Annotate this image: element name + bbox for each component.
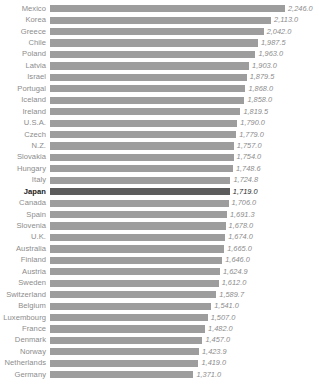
bar <box>50 303 211 310</box>
category-label: Slovakia <box>0 153 50 161</box>
value-label: 1,987.5 <box>258 39 286 47</box>
category-label: France <box>0 325 50 333</box>
value-label: 1,541.0 <box>211 302 239 310</box>
value-label: 1,482.0 <box>205 325 233 333</box>
bar <box>50 28 264 35</box>
bar-track: 1,858.0 <box>50 95 319 106</box>
bar-row: Korea2,113.0 <box>0 14 319 25</box>
value-label: 1,757.0 <box>234 142 262 150</box>
value-label: 1,589.7 <box>216 291 244 299</box>
category-label: Luxembourg <box>0 314 50 322</box>
bar <box>50 268 220 275</box>
value-label: 1,963.0 <box>255 50 283 58</box>
category-label: Japan <box>0 188 50 196</box>
category-label: Canada <box>0 199 50 207</box>
bar <box>50 200 229 207</box>
value-label: 2,246.0 <box>285 5 313 13</box>
bar <box>50 108 240 115</box>
category-label: Czech <box>0 131 50 139</box>
bar-track: 1,879.5 <box>50 72 319 83</box>
category-label: Italy <box>0 176 50 184</box>
bar <box>50 177 230 184</box>
bar-row: Belgium1,541.0 <box>0 300 319 311</box>
bar-track: 1,678.0 <box>50 220 319 231</box>
bar <box>50 62 249 69</box>
bar <box>50 188 230 195</box>
category-label: Mexico <box>0 5 50 13</box>
bar-track: 1,706.0 <box>50 197 319 208</box>
bar-row: France1,482.0 <box>0 323 319 334</box>
bar-track: 1,691.3 <box>50 209 319 220</box>
value-label: 1,819.5 <box>240 108 268 116</box>
bar-row: U.S.A.1,790.0 <box>0 117 319 128</box>
bar <box>50 39 258 46</box>
category-label: Greece <box>0 28 50 36</box>
category-label: Iceland <box>0 96 50 104</box>
value-label: 1,790.0 <box>237 119 265 127</box>
bar-row: Luxembourg1,507.0 <box>0 312 319 323</box>
bar-row: Israel1,879.5 <box>0 72 319 83</box>
bar-row: Greece2,042.0 <box>0 26 319 37</box>
bar-track: 1,541.0 <box>50 300 319 311</box>
bar <box>50 120 237 127</box>
bar-track: 1,757.0 <box>50 140 319 151</box>
bar-row: Slovenia1,678.0 <box>0 220 319 231</box>
category-label: Hungary <box>0 165 50 173</box>
value-label: 1,646.0 <box>222 256 250 264</box>
bar <box>50 291 216 298</box>
bar <box>50 360 198 367</box>
bar <box>50 211 227 218</box>
bar-track: 1,665.0 <box>50 243 319 254</box>
category-label: Korea <box>0 16 50 24</box>
bar-track: 1,646.0 <box>50 255 319 266</box>
bar-row: Hungary1,748.6 <box>0 163 319 174</box>
bar <box>50 257 222 264</box>
bar-track: 1,724.8 <box>50 175 319 186</box>
bar-row: Chile1,987.5 <box>0 37 319 48</box>
bar <box>50 74 247 81</box>
bar-track: 1,482.0 <box>50 323 319 334</box>
bar-row: Portugal1,868.0 <box>0 83 319 94</box>
category-label: Sweden <box>0 279 50 287</box>
bar-track: 2,042.0 <box>50 26 319 37</box>
bar-track: 1,987.5 <box>50 37 319 48</box>
value-label: 1,903.0 <box>249 62 277 70</box>
category-label: Portugal <box>0 85 50 93</box>
bar <box>50 325 205 332</box>
bar-track: 1,903.0 <box>50 60 319 71</box>
bar-row: Japan1,719.0 <box>0 186 319 197</box>
bar-row: Sweden1,612.0 <box>0 278 319 289</box>
bar-row: Poland1,963.0 <box>0 49 319 60</box>
bar-track: 1,507.0 <box>50 312 319 323</box>
bar-row: Netherlands1,419.0 <box>0 358 319 369</box>
bar-row: Ireland1,819.5 <box>0 106 319 117</box>
category-label: Netherlands <box>0 359 50 367</box>
bar <box>50 337 202 344</box>
value-label: 1,779.0 <box>236 131 264 139</box>
bar-row: Australia1,665.0 <box>0 243 319 254</box>
value-label: 1,754.0 <box>234 153 262 161</box>
bar-row: U.K.1,674.0 <box>0 232 319 243</box>
bar-track: 1,419.0 <box>50 358 319 369</box>
category-label: Australia <box>0 245 50 253</box>
bar-track: 2,246.0 <box>50 3 319 14</box>
bar <box>50 348 199 355</box>
bar-track: 1,589.7 <box>50 289 319 300</box>
category-label: Belgium <box>0 302 50 310</box>
category-label: N.Z. <box>0 142 50 150</box>
bar <box>50 5 285 12</box>
bar-row: Iceland1,858.0 <box>0 95 319 106</box>
bar <box>50 131 236 138</box>
bar-row: Finland1,646.0 <box>0 255 319 266</box>
value-label: 1,665.0 <box>224 245 252 253</box>
category-label: U.K. <box>0 233 50 241</box>
bar <box>50 222 226 229</box>
bar-row: Spain1,691.3 <box>0 209 319 220</box>
value-label: 1,858.0 <box>244 96 272 104</box>
bar-row: Denmark1,457.0 <box>0 335 319 346</box>
value-label: 1,419.0 <box>198 359 226 367</box>
bar-track: 1,819.5 <box>50 106 319 117</box>
bar-track: 1,754.0 <box>50 152 319 163</box>
category-label: Switzerland <box>0 291 50 299</box>
value-label: 1,674.0 <box>225 233 253 241</box>
